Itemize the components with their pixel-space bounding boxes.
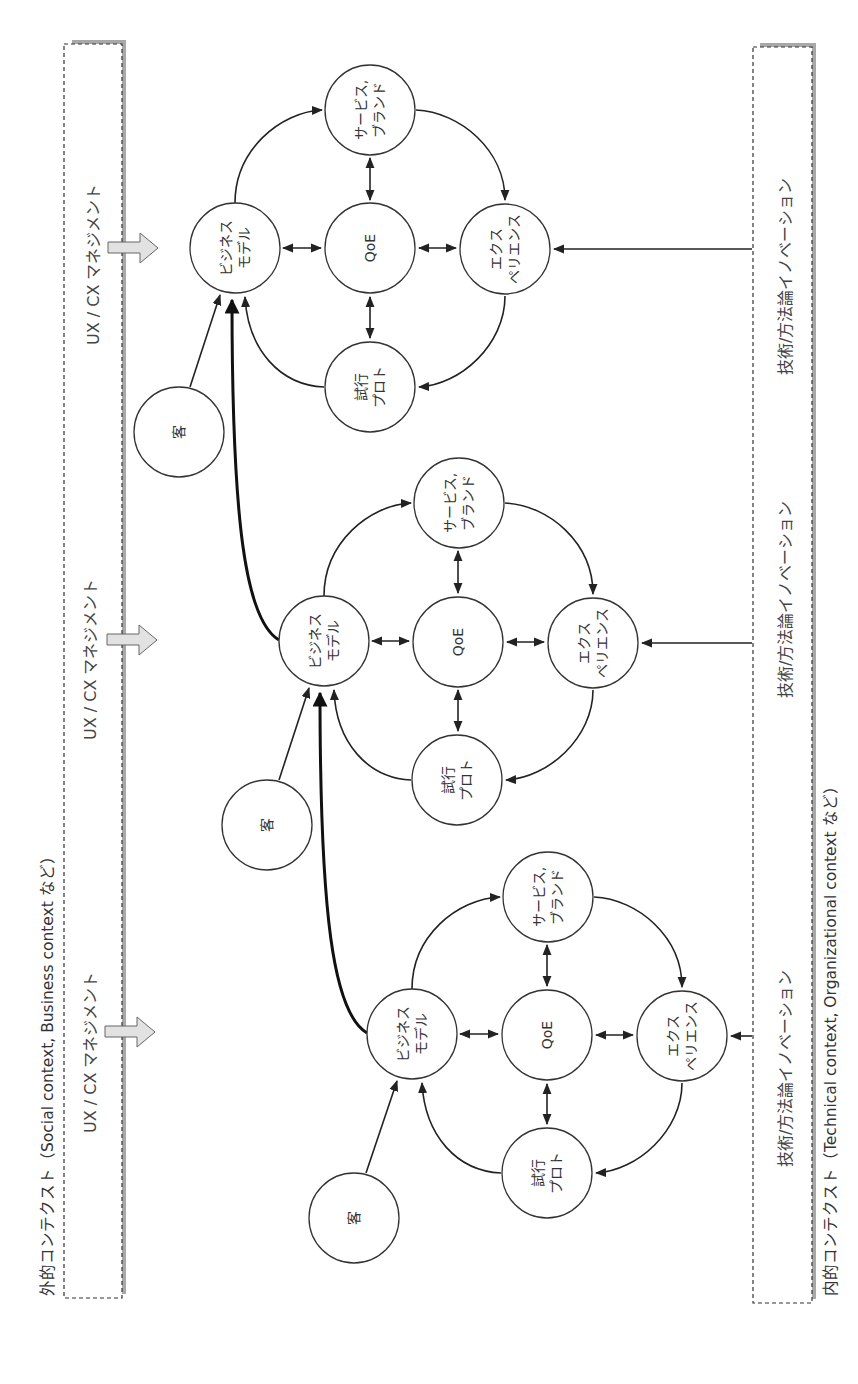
experience-label: エクス bbox=[665, 1015, 681, 1057]
innovation-label-1: 技術/方法論イノベーション bbox=[776, 178, 795, 375]
service-brand-label: ブランド bbox=[460, 475, 476, 531]
trial-proto-label: プロト bbox=[371, 366, 387, 408]
business-model-label: モデル bbox=[236, 227, 252, 269]
management-label-3: UX / CX マネジメント bbox=[81, 972, 100, 1133]
trial-proto-label: 試行 bbox=[353, 373, 369, 401]
qoe-label: QoE bbox=[450, 628, 466, 656]
business-model-label: ビジネス bbox=[218, 220, 234, 276]
qoe-label: QoE bbox=[539, 1021, 555, 1049]
management-label-2: UX / CX マネジメント bbox=[81, 579, 100, 740]
trial-proto-node bbox=[502, 1128, 592, 1218]
management-label-1: UX / CX マネジメント bbox=[84, 184, 103, 345]
experience-label: ペリエンス bbox=[594, 608, 610, 678]
experience-label: エクス bbox=[576, 622, 592, 664]
experience-label: エクス bbox=[488, 228, 504, 270]
trial-proto-node bbox=[412, 735, 502, 825]
service-brand-label: ブランド bbox=[549, 869, 565, 925]
cluster-3: ビジネス モデル QoE サービス, ブランド エクス ペリエンス 試行 プロト… bbox=[309, 852, 752, 1263]
cluster-1: ビジネス モデル QoE サービス, ブランド エクス ペリエンス 試行 プロト… bbox=[134, 65, 752, 477]
business-model-label: モデル bbox=[325, 620, 341, 662]
service-brand-node bbox=[414, 458, 504, 548]
innovation-label-3: 技術/方法論イノベーション bbox=[776, 970, 795, 1167]
service-brand-label: サービス, bbox=[353, 80, 369, 140]
customer-label: 客 bbox=[259, 818, 275, 832]
experience-label: ペリエンス bbox=[683, 1001, 699, 1071]
service-brand-node bbox=[503, 852, 593, 942]
service-brand-label: ブランド bbox=[371, 82, 387, 138]
customer-label: 客 bbox=[171, 425, 187, 439]
trial-proto-label: プロト bbox=[548, 1152, 564, 1194]
trial-proto-label: 試行 bbox=[440, 766, 456, 794]
customer-label: 客 bbox=[346, 1211, 362, 1225]
trial-proto-label: プロト bbox=[458, 759, 474, 801]
trial-proto-node bbox=[325, 342, 415, 432]
outer-context-label: 外的コンテクスト（Social context, Business contex… bbox=[39, 848, 57, 1296]
service-brand-label: サービス, bbox=[531, 867, 547, 927]
business-model-node bbox=[279, 596, 369, 686]
business-model-label: ビジネス bbox=[395, 1006, 411, 1062]
business-model-node bbox=[367, 989, 457, 1079]
qoe-label: QoE bbox=[362, 234, 378, 262]
service-brand-node bbox=[325, 65, 415, 155]
cluster-link-3-to-2 bbox=[320, 693, 367, 1033]
ux-cx-diagram: 外的コンテクスト（Social context, Business contex… bbox=[0, 0, 858, 1384]
experience-node bbox=[548, 598, 638, 688]
innovation-label-2: 技術/方法論イノベーション bbox=[776, 501, 795, 698]
business-model-label: モデル bbox=[413, 1013, 429, 1055]
business-model-node bbox=[190, 203, 280, 293]
experience-label: ペリエンス bbox=[506, 214, 522, 284]
experience-node bbox=[637, 991, 727, 1081]
cluster-2: ビジネス モデル QoE サービス, ブランド エクス ペリエンス 試行 プロト… bbox=[222, 458, 752, 870]
cluster-link-2-to-1 bbox=[232, 300, 279, 640]
service-brand-label: サービス, bbox=[442, 473, 458, 533]
business-model-label: ビジネス bbox=[307, 613, 323, 669]
experience-node bbox=[460, 204, 550, 294]
inner-context-label: 内的コンテクスト（Technical context, Organization… bbox=[822, 778, 840, 1296]
trial-proto-label: 試行 bbox=[530, 1159, 546, 1187]
